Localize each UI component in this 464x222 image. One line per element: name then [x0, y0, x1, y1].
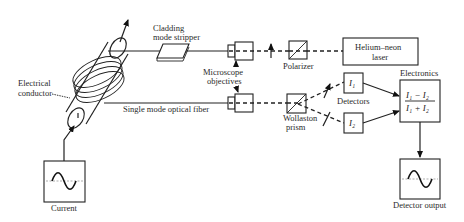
fiber-coil [68, 50, 128, 109]
laser-label: Helium–neon [355, 42, 402, 52]
detectors-label: Detectors [337, 96, 370, 106]
detector-output-label: Detector output [393, 200, 447, 210]
formula-numerator: I₁ − I₂ [405, 90, 429, 100]
detector-2-label: I₂ [348, 118, 355, 128]
formula-denominator: I₁ + I₂ [405, 103, 429, 113]
polarizer-label: Polarizer [283, 61, 314, 71]
microscope-objectives-label-2: objectives [207, 76, 241, 86]
detector-1-label: I₁ [348, 78, 355, 88]
laser-label-2: laser [372, 52, 388, 62]
polarizer [289, 41, 307, 59]
single-mode-fiber-label: Single mode optical fiber [123, 104, 209, 114]
electrical-conductor-label-2: conductor [18, 88, 52, 98]
electrical-conductor-label: Electrical [18, 78, 51, 88]
cladding-mode-stripper-label-2: mode stripper [153, 32, 200, 42]
wollaston-prism-label-2: prism [286, 122, 306, 132]
detector-output-scope [400, 159, 440, 199]
electronics-label: Electronics [400, 68, 438, 78]
current-feed-line [64, 126, 74, 161]
cladding-mode-stripper [157, 44, 189, 58]
wollaston-prism [287, 94, 306, 113]
current-label: Current [51, 203, 78, 213]
fiber-current-sensor-diagram: Electrical conductor Cladding mode strip… [0, 0, 464, 222]
current-scope [44, 161, 85, 202]
